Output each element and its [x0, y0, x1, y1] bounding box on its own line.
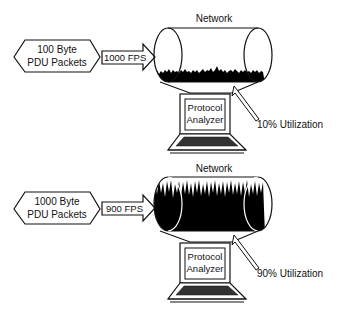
- scenario-2: 1000 Byte PDU Packets 900 FPS Network Pr…: [14, 163, 323, 302]
- source-label-line1: 100 Byte: [37, 44, 77, 55]
- rate-arrow: 1000 FPS: [102, 44, 155, 70]
- network-pipe: [150, 28, 272, 84]
- analyzer-label-line1: Protocol: [188, 251, 223, 262]
- utilization-label: 90% Utilization: [257, 268, 323, 279]
- network-label: Network: [196, 163, 234, 174]
- network-utilization-diagram: 100 Byte PDU Packets 1000 FPS Network Pr…: [0, 0, 339, 318]
- analyzer-label-line2: Analyzer: [187, 263, 224, 274]
- rate-label: 900 FPS: [106, 203, 143, 214]
- utilization-pointer: 90% Utilization: [232, 235, 323, 279]
- utilization-pointer: 10% Utilization: [232, 86, 323, 130]
- scenario-1: 100 Byte PDU Packets 1000 FPS Network Pr…: [14, 13, 323, 153]
- protocol-analyzer-laptop: Protocol Analyzer: [168, 243, 246, 302]
- keyboard-keys: [176, 286, 238, 295]
- analyzer-label-line2: Analyzer: [187, 114, 224, 125]
- source-packets-box: 1000 Byte PDU Packets: [14, 192, 100, 224]
- analyzer-label-line1: Protocol: [188, 102, 223, 113]
- traffic-fill-high: [150, 180, 265, 235]
- source-packets-box: 100 Byte PDU Packets: [14, 40, 100, 72]
- traffic-fill-low: [150, 66, 265, 84]
- source-label-line1: 1000 Byte: [34, 196, 79, 207]
- source-label-line2: PDU Packets: [27, 57, 86, 68]
- rate-arrow: 900 FPS: [102, 195, 155, 221]
- rate-label: 1000 FPS: [104, 52, 146, 63]
- tap-connector: [160, 82, 258, 93]
- keyboard-keys: [176, 137, 238, 146]
- source-label-line2: PDU Packets: [27, 209, 86, 220]
- network-pipe: [150, 177, 272, 235]
- tap-connector: [160, 231, 258, 242]
- protocol-analyzer-laptop: Protocol Analyzer: [168, 94, 246, 153]
- network-label: Network: [196, 13, 234, 24]
- utilization-label: 10% Utilization: [257, 119, 323, 130]
